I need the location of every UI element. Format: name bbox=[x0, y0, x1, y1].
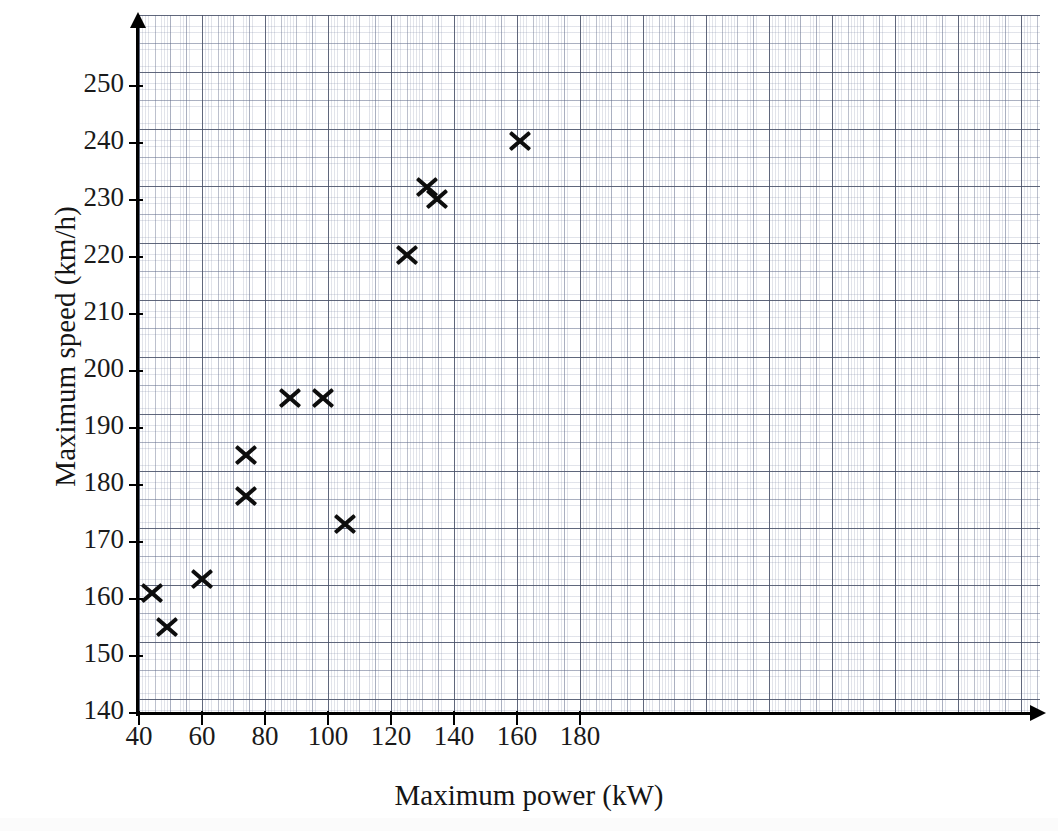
data-point-marker[interactable] bbox=[507, 128, 533, 154]
y-tick-mark bbox=[129, 484, 143, 487]
data-point-marker[interactable] bbox=[424, 186, 450, 212]
y-tick-mark bbox=[129, 427, 143, 430]
y-axis-arrow-icon bbox=[130, 12, 146, 28]
y-tick-mark bbox=[129, 370, 143, 373]
y-tick-mark bbox=[129, 541, 143, 544]
y-tick-mark bbox=[129, 256, 143, 259]
data-point-marker[interactable] bbox=[394, 242, 420, 268]
y-tick-mark bbox=[129, 598, 143, 601]
y-tick-mark bbox=[129, 85, 143, 88]
scatter-chart-figure: 140150160170180190200210220230240250 406… bbox=[0, 0, 1058, 831]
x-axis-line bbox=[138, 712, 1033, 715]
data-point-marker[interactable] bbox=[139, 580, 165, 606]
data-point-marker[interactable] bbox=[189, 566, 215, 592]
grid-medium bbox=[139, 15, 1040, 713]
y-tick-mark bbox=[129, 655, 143, 658]
data-point-marker[interactable] bbox=[310, 385, 336, 411]
data-point-marker[interactable] bbox=[277, 385, 303, 411]
y-tick-label: 140 bbox=[0, 697, 124, 724]
y-tick-mark bbox=[129, 199, 143, 202]
x-tick-label: 180 bbox=[540, 723, 620, 750]
plot-area bbox=[139, 15, 1040, 713]
data-point-marker[interactable] bbox=[332, 511, 358, 537]
x-axis-title: Maximum power (kW) bbox=[0, 779, 1058, 812]
grid-minor bbox=[139, 15, 1040, 713]
data-point-marker[interactable] bbox=[233, 483, 259, 509]
data-point-marker[interactable] bbox=[154, 615, 180, 641]
grid-major bbox=[139, 15, 1040, 713]
y-axis-title: Maximum speed (km/h) bbox=[49, 27, 82, 667]
data-point-marker[interactable] bbox=[233, 442, 259, 468]
x-axis-arrow-icon bbox=[1030, 705, 1046, 721]
y-tick-mark bbox=[129, 712, 143, 715]
y-tick-mark bbox=[129, 313, 143, 316]
paper-bottom-edge bbox=[0, 818, 1058, 831]
y-tick-mark bbox=[129, 142, 143, 145]
